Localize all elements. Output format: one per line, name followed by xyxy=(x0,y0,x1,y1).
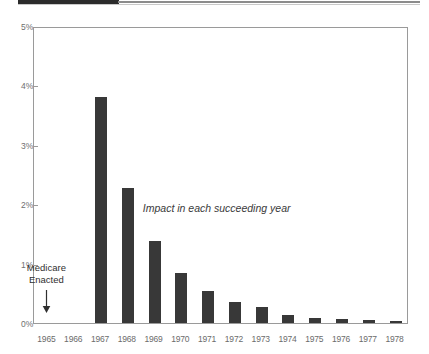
down-arrow-icon xyxy=(41,290,52,314)
annotation-impact-note: Impact in each succeeding year xyxy=(143,202,291,214)
x-tick-label-1972: 1972 xyxy=(220,334,248,344)
bar-1974 xyxy=(282,315,294,323)
x-tick-label-1969: 1969 xyxy=(140,334,168,344)
y-axis: 0%1%2%3%4%5% xyxy=(0,0,33,354)
y-tick-label: 4% xyxy=(5,81,33,91)
x-tick-label-1971: 1971 xyxy=(193,334,221,344)
x-tick-label-1974: 1974 xyxy=(273,334,301,344)
bar-1975 xyxy=(309,318,321,323)
x-tick-label-1970: 1970 xyxy=(166,334,194,344)
medicare-label-line1: Medicare xyxy=(6,262,86,274)
annotation-medicare-enacted: Medicare Enacted xyxy=(6,262,86,286)
x-tick-label-1968: 1968 xyxy=(113,334,141,344)
x-tick-label-1975: 1975 xyxy=(300,334,328,344)
y-tick-label: 5% xyxy=(5,22,33,32)
x-tick-label-1965: 1965 xyxy=(32,334,60,344)
y-tick-label: 3% xyxy=(5,141,33,151)
bar-1971 xyxy=(202,291,214,323)
x-tick-label-1977: 1977 xyxy=(354,334,382,344)
x-tick-label-1973: 1973 xyxy=(247,334,275,344)
x-tick-label-1976: 1976 xyxy=(327,334,355,344)
y-tick-label: 2% xyxy=(5,200,33,210)
bar-1969 xyxy=(149,241,161,323)
y-tick-mark xyxy=(33,146,38,147)
bar-1972 xyxy=(229,302,241,323)
bar-1973 xyxy=(256,307,268,323)
x-tick-label-1966: 1966 xyxy=(59,334,87,344)
bar-1968 xyxy=(122,188,134,323)
plot-area xyxy=(33,27,408,324)
bar-chart: 0%1%2%3%4%5% Impact in each succeeding y… xyxy=(0,0,429,354)
y-tick-label: 0% xyxy=(5,319,33,329)
y-tick-mark xyxy=(33,265,38,266)
medicare-label-line2: Enacted xyxy=(6,274,86,286)
x-tick-label-1978: 1978 xyxy=(381,334,409,344)
x-tick-label-1967: 1967 xyxy=(86,334,114,344)
bar-1976 xyxy=(336,319,348,323)
bar-1970 xyxy=(175,273,187,323)
y-tick-mark xyxy=(33,86,38,87)
bar-1977 xyxy=(363,320,375,323)
bar-1967 xyxy=(95,97,107,323)
bar-1978 xyxy=(390,321,402,323)
y-tick-mark xyxy=(33,205,38,206)
